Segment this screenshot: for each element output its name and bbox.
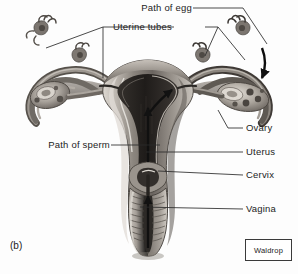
label-path-of-sperm: Path of sperm: [34, 140, 110, 150]
credit-box: Waldrop: [245, 239, 292, 261]
leader-path-of-egg: [193, 8, 267, 44]
figure-container: Path of egg Uterine tubes Path of sperm …: [0, 0, 298, 274]
anatomy-illustration: [0, 0, 298, 274]
egg-arrow: [262, 48, 265, 78]
label-cervix: Cervix: [246, 170, 274, 180]
label-uterus: Uterus: [246, 147, 275, 157]
label-path-of-egg: Path of egg: [118, 3, 192, 13]
figure-letter: (b): [10, 240, 22, 251]
fimbriae-right-upper: [228, 16, 250, 35]
fimbriae-right-lower: [193, 43, 210, 62]
leader-uterine-tubes-right-a: [205, 27, 218, 56]
label-ovary: Ovary: [246, 123, 272, 133]
label-uterine-tubes: Uterine tubes: [86, 22, 172, 32]
label-vagina: Vagina: [246, 204, 276, 214]
fimbriae-left-upper: [26, 16, 56, 45]
credit-text: Waldrop: [254, 246, 283, 255]
leader-ovary: [218, 110, 243, 128]
fimbriae-left-lower: [72, 43, 89, 62]
